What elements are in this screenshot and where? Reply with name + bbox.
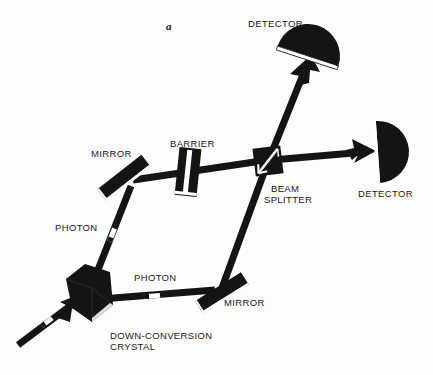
beam-upper-mirror-to-beam-splitter	[133, 160, 268, 180]
label-mirror-lower: MIRROR	[224, 297, 265, 309]
figure-canvas: a DETECTOR DETECTOR MIRROR MIRROR BARRIE…	[0, 0, 433, 375]
label-mirror-upper: MIRROR	[91, 148, 132, 160]
label-photon-lower: PHOTON	[134, 272, 177, 284]
panel-letter: a	[166, 20, 172, 32]
barrier[interactable]	[175, 147, 202, 197]
detector-right[interactable]	[372, 119, 411, 183]
down-conversion-crystal[interactable]	[66, 264, 113, 322]
label-crystal-line1: DOWN-CONVERSION	[110, 330, 212, 342]
label-beam-splitter-line1: BEAM	[271, 183, 299, 195]
arrowhead-right-detector	[346, 139, 376, 163]
label-detector-top: DETECTOR	[248, 18, 303, 30]
label-crystal-line2: CRYSTAL	[110, 341, 155, 353]
label-beam-splitter-line2: SPLITTER	[264, 194, 312, 206]
beam-lower-mirror-to-beam-splitter	[222, 167, 266, 288]
label-detector-right: DETECTOR	[358, 188, 413, 200]
label-photon-upper: PHOTON	[55, 222, 98, 234]
label-barrier: BARRIER	[170, 138, 215, 150]
beam-splitter[interactable]	[252, 145, 283, 176]
